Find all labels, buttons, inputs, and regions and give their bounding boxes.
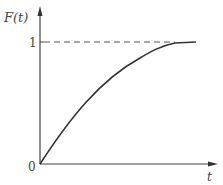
origin-label: 0	[28, 160, 36, 174]
y-axis-label: F(t)	[3, 10, 28, 25]
cdf-chart: F(t) 1 0 t	[0, 0, 223, 185]
y-tick-label-1: 1	[29, 36, 37, 50]
x-axis-arrow-icon	[208, 162, 218, 167]
y-axis-arrow-icon	[38, 6, 43, 16]
cdf-curve	[40, 42, 196, 164]
x-axis-label: t	[207, 170, 212, 184]
